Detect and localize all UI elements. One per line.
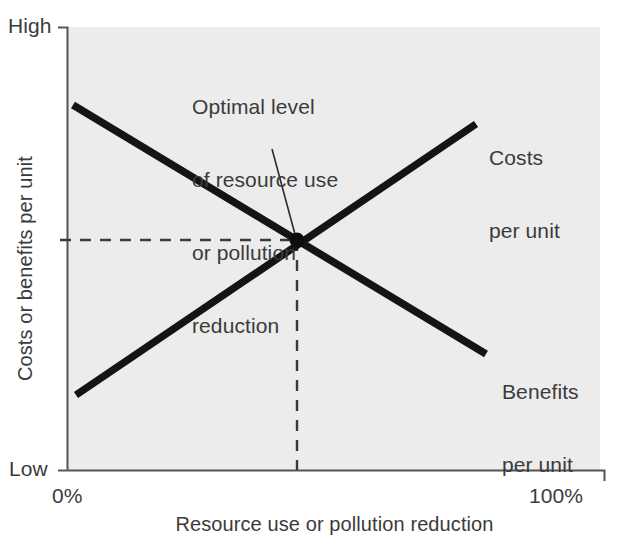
- benefits-series-label-line2: per unit: [502, 453, 579, 477]
- optimum-annotation-line1: Optimal level: [192, 95, 338, 119]
- y-axis-max-label: High: [8, 14, 52, 38]
- optimum-annotation-line4: reduction: [192, 314, 338, 338]
- costs-series-label: Costs per unit: [489, 97, 560, 292]
- optimum-annotation: Optimal level of resource use or polluti…: [192, 46, 338, 387]
- benefits-series-label-line1: Benefits: [502, 380, 579, 404]
- optimum-annotation-line3: or pollution: [192, 241, 338, 265]
- optimum-annotation-line2: of resource use: [192, 168, 338, 192]
- benefits-series-label: Benefits per unit: [502, 331, 579, 526]
- costs-series-label-line1: Costs: [489, 146, 560, 170]
- costs-series-label-line2: per unit: [489, 219, 560, 243]
- y-axis-min-label: Low: [9, 457, 48, 481]
- y-axis-title: Costs or benefits per unit: [14, 139, 37, 399]
- chart-figure: High Low 0% 100% Costs or benefits per u…: [0, 0, 636, 540]
- x-axis-min-label: 0%: [52, 484, 83, 508]
- y-axis-line: [58, 28, 68, 471]
